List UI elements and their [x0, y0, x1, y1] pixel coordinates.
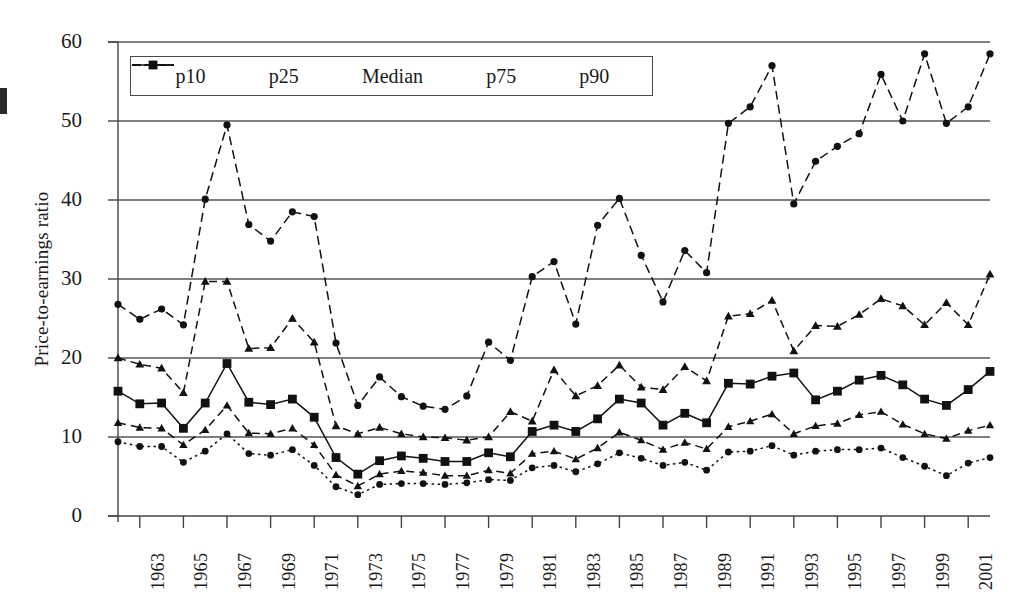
- data-point: [898, 380, 907, 389]
- data-point: [115, 438, 122, 445]
- data-point: [397, 467, 405, 474]
- data-point: [550, 365, 559, 373]
- data-point: [790, 200, 797, 207]
- data-point: [311, 213, 318, 220]
- data-point: [224, 430, 231, 437]
- data-point: [180, 459, 187, 466]
- data-point: [485, 339, 492, 346]
- legend-item-median: Median: [360, 65, 423, 88]
- data-point: [921, 463, 928, 470]
- data-point: [462, 457, 471, 466]
- series-line: [118, 54, 990, 410]
- data-point: [768, 410, 776, 417]
- data-point: [943, 120, 950, 127]
- data-point: [114, 301, 121, 308]
- data-point: [354, 482, 362, 489]
- data-point: [484, 448, 493, 457]
- data-point: [616, 449, 623, 456]
- legend-item-p75: p75: [484, 65, 516, 88]
- data-point: [921, 50, 928, 57]
- legend-swatch-p90: [131, 57, 175, 73]
- data-point: [594, 460, 601, 467]
- data-point: [289, 446, 296, 453]
- data-point: [593, 381, 602, 389]
- data-point: [725, 120, 732, 127]
- legend-item-p10: p10: [174, 65, 206, 88]
- data-point: [724, 379, 733, 388]
- data-point: [507, 477, 514, 484]
- data-point: [877, 71, 884, 78]
- data-point: [616, 195, 623, 202]
- data-point: [332, 453, 341, 462]
- data-point: [637, 383, 646, 391]
- data-point: [420, 403, 427, 410]
- data-point: [114, 419, 122, 426]
- data-point: [899, 420, 907, 427]
- data-point: [986, 421, 994, 428]
- data-point: [354, 402, 361, 409]
- data-point: [332, 422, 341, 430]
- data-point: [789, 346, 798, 354]
- data-point: [724, 312, 733, 320]
- data-point: [158, 443, 165, 450]
- data-point: [615, 361, 624, 369]
- data-point: [615, 395, 624, 404]
- data-point: [201, 426, 209, 433]
- data-point: [877, 371, 886, 380]
- data-point: [877, 408, 885, 415]
- data-point: [855, 376, 864, 385]
- data-point: [659, 421, 668, 430]
- data-point: [899, 454, 906, 461]
- data-point: [833, 387, 842, 396]
- data-point: [769, 442, 776, 449]
- data-point: [149, 61, 156, 68]
- data-point: [681, 438, 689, 445]
- data-point: [899, 117, 906, 124]
- data-point: [856, 130, 863, 137]
- data-point: [965, 460, 972, 467]
- series-p25: [114, 401, 994, 489]
- data-point: [506, 452, 515, 461]
- legend-label: p25: [269, 65, 299, 88]
- data-point: [158, 305, 165, 312]
- data-point: [179, 388, 188, 396]
- data-point: [180, 321, 187, 328]
- data-point: [878, 445, 885, 452]
- data-point: [244, 398, 253, 407]
- data-point: [201, 277, 210, 285]
- data-point: [201, 399, 210, 408]
- data-point: [332, 471, 340, 478]
- data-point: [376, 373, 383, 380]
- data-point: [288, 314, 297, 322]
- data-point: [442, 481, 449, 488]
- data-point: [267, 237, 274, 244]
- chart-figure: Price-to-earnings ratio 0102030405060 19…: [0, 0, 1013, 601]
- data-point: [702, 377, 711, 385]
- data-point: [136, 443, 143, 450]
- data-point: [485, 476, 492, 483]
- data-point: [529, 273, 536, 280]
- data-point: [288, 395, 297, 404]
- data-point: [507, 357, 514, 364]
- data-point: [877, 294, 886, 302]
- data-point: [529, 464, 536, 471]
- data-point: [288, 424, 296, 431]
- data-point: [986, 367, 995, 376]
- data-point: [702, 418, 711, 427]
- data-point: [310, 441, 318, 448]
- data-point: [550, 447, 558, 454]
- legend-item-p90: p90: [577, 65, 609, 88]
- data-point: [943, 472, 950, 479]
- data-point: [834, 446, 841, 453]
- series-median: [114, 359, 995, 478]
- data-point: [964, 385, 973, 394]
- data-point: [157, 399, 166, 408]
- data-point: [638, 252, 645, 259]
- data-point: [202, 448, 209, 455]
- data-point: [768, 296, 777, 304]
- data-point: [747, 103, 754, 110]
- data-point: [790, 452, 797, 459]
- data-point: [747, 448, 754, 455]
- data-point: [986, 270, 995, 278]
- data-point: [659, 298, 666, 305]
